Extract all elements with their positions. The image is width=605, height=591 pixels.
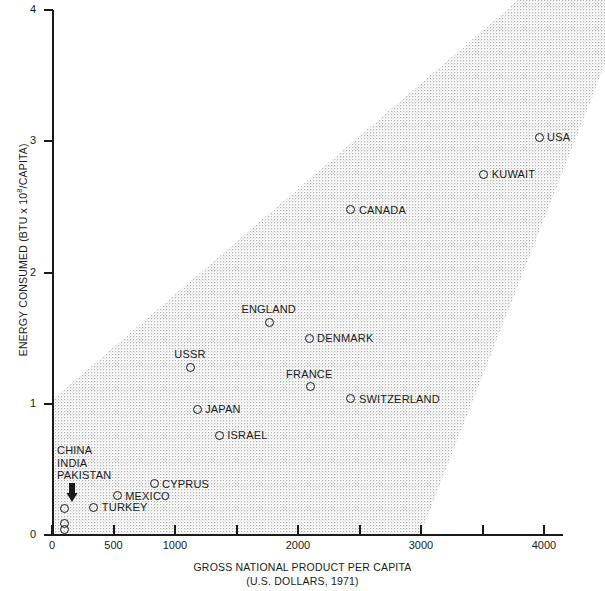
data-label-cyprus: CYPRUS: [162, 479, 209, 490]
down-arrow-icon: [66, 483, 78, 503]
data-point-cyprus[interactable]: [150, 479, 159, 488]
scatter-chart: ENERGY CONSUMED (BTU x 108/CAPITA) GROSS…: [0, 0, 605, 591]
y-tick-label-4: 4: [20, 4, 36, 15]
data-point-usa[interactable]: [535, 133, 544, 142]
data-label-france: FRANCE: [286, 369, 332, 380]
x-tick-2000: [297, 525, 299, 535]
x-tick-3000: [420, 525, 422, 535]
y-tick-1: [44, 403, 53, 405]
data-label-switzerland: SWITZERLAND: [359, 394, 440, 405]
x-axis-title-main: GROSS NATIONAL PRODUCT PER CAPITA: [0, 560, 605, 574]
x-tick-4000: [543, 525, 545, 535]
x-axis-line: [44, 534, 563, 536]
data-label-israel: ISRAEL: [227, 430, 267, 441]
data-label-ussr: USSR: [174, 349, 205, 360]
y-axis-title-exponent: 8: [15, 188, 24, 192]
x-axis-title: GROSS NATIONAL PRODUCT PER CAPITA (U.S. …: [0, 560, 605, 588]
y-tick-2: [44, 272, 53, 274]
data-label-japan: JAPAN: [205, 404, 241, 415]
data-point-denmark[interactable]: [305, 334, 314, 343]
y-tick-label-2: 2: [20, 267, 36, 278]
x-axis-title-sub: (U.S. DOLLARS, 1971): [0, 574, 605, 588]
x-tick-label-0: 0: [22, 540, 82, 551]
data-label-denmark: DENMARK: [317, 333, 373, 344]
x-tick-label-500: 500: [84, 540, 144, 551]
data-point-ussr[interactable]: [186, 363, 195, 372]
data-label-canada: CANADA: [359, 205, 406, 216]
data-point-israel[interactable]: [215, 431, 224, 440]
band-polygon: [52, 0, 605, 535]
x-tick-3500: [482, 525, 484, 535]
data-point-china[interactable]: [60, 504, 69, 513]
plot-area: [52, 0, 605, 535]
data-point-pakistan[interactable]: [60, 525, 69, 534]
x-tick-label-2000: 2000: [268, 540, 328, 551]
data-label-mexico: MEXICO: [125, 491, 170, 502]
y-tick-label-3: 3: [20, 135, 36, 146]
data-label-turkey: TURKEY: [102, 502, 148, 513]
data-label-kuwait: KUWAIT: [492, 169, 536, 180]
x-tick-500: [113, 525, 115, 535]
cluster-callout: CHINA INDIA PAKISTAN: [57, 444, 111, 482]
data-point-kuwait[interactable]: [479, 170, 488, 179]
x-tick-1000: [174, 525, 176, 535]
x-tick-2500: [359, 525, 361, 535]
data-point-france[interactable]: [306, 382, 315, 391]
x-tick-0: [51, 525, 53, 535]
callout-label-pakistan: PAKISTAN: [57, 469, 111, 482]
callout-label-china: CHINA: [57, 444, 111, 457]
correlation-band: [52, 0, 605, 535]
y-tick-4: [44, 9, 53, 11]
data-label-england: ENGLAND: [241, 304, 296, 315]
y-axis-title-tail: /CAPITA): [17, 143, 29, 188]
callout-label-india: INDIA: [57, 457, 111, 470]
data-point-mexico[interactable]: [113, 491, 122, 500]
data-label-usa: USA: [547, 132, 570, 143]
x-tick-label-3000: 3000: [391, 540, 451, 551]
x-tick-label-1000: 1000: [145, 540, 205, 551]
x-tick-1500: [236, 525, 238, 535]
y-tick-3: [44, 140, 53, 142]
data-point-japan[interactable]: [193, 405, 202, 414]
y-tick-label-1: 1: [20, 398, 36, 409]
y-tick-label-0: 0: [20, 529, 36, 540]
x-tick-label-4000: 4000: [514, 540, 574, 551]
